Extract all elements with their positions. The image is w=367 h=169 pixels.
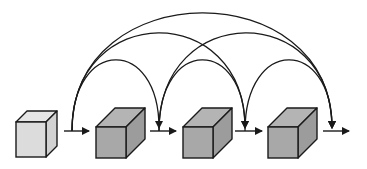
cube-front-face — [183, 127, 213, 158]
block-cube — [268, 108, 317, 158]
cube-front-face — [96, 127, 126, 158]
diagram-canvas — [0, 0, 367, 169]
cube-front-face — [268, 127, 298, 158]
dense-connectivity-diagram — [0, 0, 367, 169]
cube-front-face — [16, 122, 46, 157]
cubes — [16, 108, 317, 158]
input-cube — [16, 111, 57, 157]
block-cube — [183, 108, 232, 158]
block-cube — [96, 108, 145, 158]
